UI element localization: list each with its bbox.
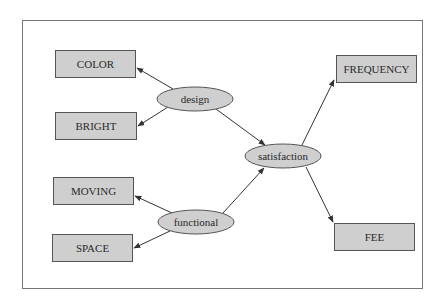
node-space[interactable]: SPACE xyxy=(53,235,133,262)
node-color-label: COLOR xyxy=(77,58,115,70)
node-fee[interactable]: FEE xyxy=(335,224,415,251)
node-satisfaction[interactable]: satisfaction xyxy=(245,144,321,168)
node-moving-label: MOVING xyxy=(71,185,116,197)
node-satisfaction-label: satisfaction xyxy=(258,150,309,162)
node-space-label: SPACE xyxy=(76,242,110,254)
node-moving[interactable]: MOVING xyxy=(54,178,134,205)
node-bright-label: BRIGHT xyxy=(76,120,117,132)
node-color[interactable]: COLOR xyxy=(56,51,136,78)
diagram-canvas: COLOR BRIGHT MOVING SPACE FREQUENCY FEE … xyxy=(0,0,443,304)
node-design[interactable]: design xyxy=(157,87,233,111)
node-fee-label: FEE xyxy=(365,231,385,243)
node-frequency[interactable]: FREQUENCY xyxy=(337,56,417,83)
node-design-label: design xyxy=(181,93,210,105)
node-functional-label: functional xyxy=(174,216,219,228)
node-functional[interactable]: functional xyxy=(158,210,234,234)
node-frequency-label: FREQUENCY xyxy=(343,63,409,75)
node-bright[interactable]: BRIGHT xyxy=(56,113,137,140)
